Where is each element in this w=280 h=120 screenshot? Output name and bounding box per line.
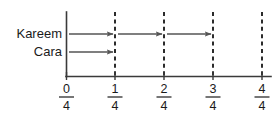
series-label-cara: Cara	[34, 44, 63, 59]
tick-label-0: 0 4	[59, 82, 74, 113]
tick-label-2-denominator: 4	[161, 99, 168, 113]
tick-label-1-numerator: 1	[112, 82, 119, 96]
tick-label-4-denominator: 4	[259, 99, 266, 113]
tick-label-4: 4 4	[255, 82, 270, 113]
tick-label-2-numerator: 2	[161, 82, 168, 96]
tick-label-0-denominator: 4	[63, 99, 70, 113]
number-line-diagram-canvas: Kareem Cara 0 4 1 4 2 4 3	[0, 0, 280, 120]
tick-label-3-denominator: 4	[210, 99, 217, 113]
tick-label-2: 2 4	[157, 82, 172, 113]
tick-label-0-numerator: 0	[63, 82, 70, 96]
tick-label-3: 3 4	[206, 82, 221, 113]
series-row-cara: Cara	[34, 44, 113, 59]
number-line-diagram-figure: Kareem Cara 0 4 1 4 2 4 3	[0, 0, 280, 120]
series-row-kareem: Kareem	[16, 26, 211, 41]
tick-label-3-numerator: 3	[210, 82, 217, 96]
tick-label-1-denominator: 4	[112, 99, 119, 113]
gridlines-group	[115, 12, 262, 76]
series-label-kareem: Kareem	[16, 26, 62, 41]
tick-label-1: 1 4	[108, 82, 123, 113]
tick-label-4-numerator: 4	[259, 82, 266, 96]
